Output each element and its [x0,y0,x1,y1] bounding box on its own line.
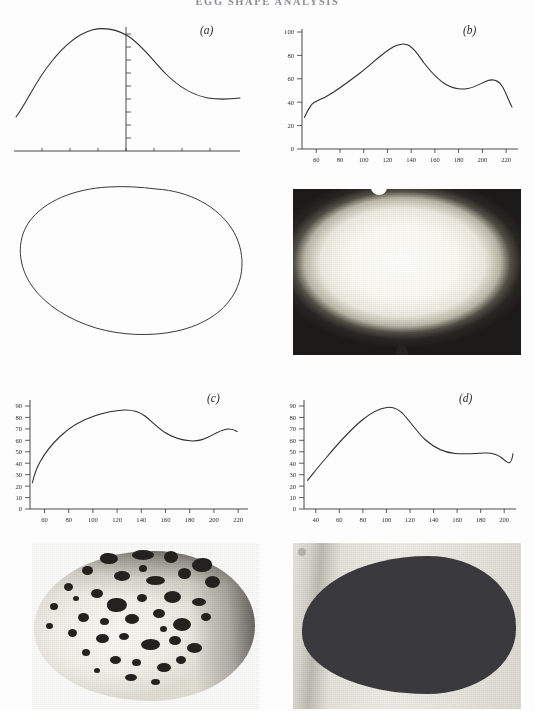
svg-text:40: 40 [313,516,320,523]
svg-text:200: 200 [209,516,220,523]
panel-c-y-ticks: 0 10 20 30 40 50 60 70 80 90 [15,402,30,512]
svg-text:10: 10 [15,494,22,501]
svg-text:140: 140 [429,516,440,523]
panel-d-curve [308,407,514,480]
svg-text:10: 10 [289,494,296,501]
svg-text:180: 180 [454,156,465,163]
halftone-grain [32,543,260,709]
svg-text:100: 100 [284,28,295,35]
svg-text:30: 30 [289,471,296,478]
panel-a-svg [0,18,258,183]
svg-text:90: 90 [15,402,22,409]
svg-text:50: 50 [15,448,22,455]
svg-text:200: 200 [477,156,488,163]
svg-text:20: 20 [289,483,296,490]
svg-text:160: 160 [452,516,463,523]
svg-text:120: 120 [112,516,123,523]
white-egg-photograph [293,189,521,355]
svg-text:180: 180 [476,516,487,523]
panel-d-chart: 0 10 20 30 40 50 60 70 80 90 [266,378,535,533]
svg-text:80: 80 [360,516,367,523]
panel-b-chart: 0 20 40 60 80 100 60 80 100 [266,18,535,183]
svg-text:160: 160 [161,516,172,523]
svg-text:70: 70 [289,425,296,432]
svg-text:50: 50 [289,448,296,455]
panel-b-label: (b) [463,24,476,36]
panel-b-curve [304,44,512,118]
svg-text:40: 40 [15,460,22,467]
svg-text:80: 80 [15,414,22,421]
halftone-grain [293,189,521,355]
panel-c-curve [32,410,237,483]
egg-outline-drawing [4,183,264,361]
svg-text:60: 60 [289,437,296,444]
svg-text:80: 80 [287,52,294,59]
svg-text:0: 0 [291,145,295,152]
svg-text:120: 120 [405,516,416,523]
panel-a-y-ticks [126,34,131,138]
dark-egg-photograph [293,543,521,709]
svg-text:100: 100 [88,516,99,523]
panel-c-label: (c) [207,392,220,404]
panel-c-x-ticks: 60 80 100 120 140 160 180 200 220 [41,509,244,523]
svg-text:70: 70 [15,425,22,432]
svg-text:140: 140 [406,156,417,163]
running-head: EGG SHAPE ANALYSIS [0,0,535,7]
panel-c-svg: 0 10 20 30 40 50 60 70 80 90 [0,378,262,533]
panel-b-y-ticks: 0 20 40 60 80 100 [284,28,302,152]
svg-text:0: 0 [293,505,297,512]
panel-c-chart: 0 10 20 30 40 50 60 70 80 90 [0,378,262,533]
panel-d-svg: 0 10 20 30 40 50 60 70 80 90 [266,378,535,533]
svg-text:120: 120 [382,156,393,163]
svg-text:40: 40 [289,460,296,467]
svg-text:30: 30 [15,471,22,478]
panel-a-chart: (a) [0,18,258,183]
svg-text:0: 0 [19,505,23,512]
svg-text:100: 100 [359,156,370,163]
svg-text:220: 220 [501,156,512,163]
panel-d-x-ticks: 40 60 80 100 120 140 160 180 200 [313,509,510,523]
svg-text:100: 100 [381,516,392,523]
panel-d-label: (d) [459,392,472,404]
svg-text:80: 80 [337,156,344,163]
svg-text:60: 60 [41,516,48,523]
svg-text:60: 60 [336,516,343,523]
svg-text:60: 60 [287,75,294,82]
figure-page: EGG SHAPE ANALYSIS [0,0,535,711]
panel-a-label: (a) [200,24,213,36]
panel-b-svg: 0 20 40 60 80 100 60 80 100 [266,18,535,183]
egg-outline-path [20,187,242,335]
svg-text:140: 140 [136,516,147,523]
svg-text:60: 60 [15,437,22,444]
svg-text:20: 20 [15,483,22,490]
panel-d-y-ticks: 0 10 20 30 40 50 60 70 80 90 [289,402,304,512]
svg-text:180: 180 [185,516,196,523]
egg-outline-svg [4,183,264,361]
svg-text:80: 80 [65,516,72,523]
svg-text:160: 160 [430,156,441,163]
svg-text:80: 80 [289,414,296,421]
speckled-egg-photograph [32,543,260,709]
svg-text:60: 60 [313,156,320,163]
svg-text:200: 200 [499,516,510,523]
svg-text:220: 220 [233,516,244,523]
halftone-grain [293,543,521,709]
svg-text:40: 40 [287,99,294,106]
panel-b-x-ticks: 60 80 100 120 140 160 180 200 220 [313,149,512,163]
svg-text:90: 90 [289,402,296,409]
svg-text:20: 20 [287,122,294,129]
